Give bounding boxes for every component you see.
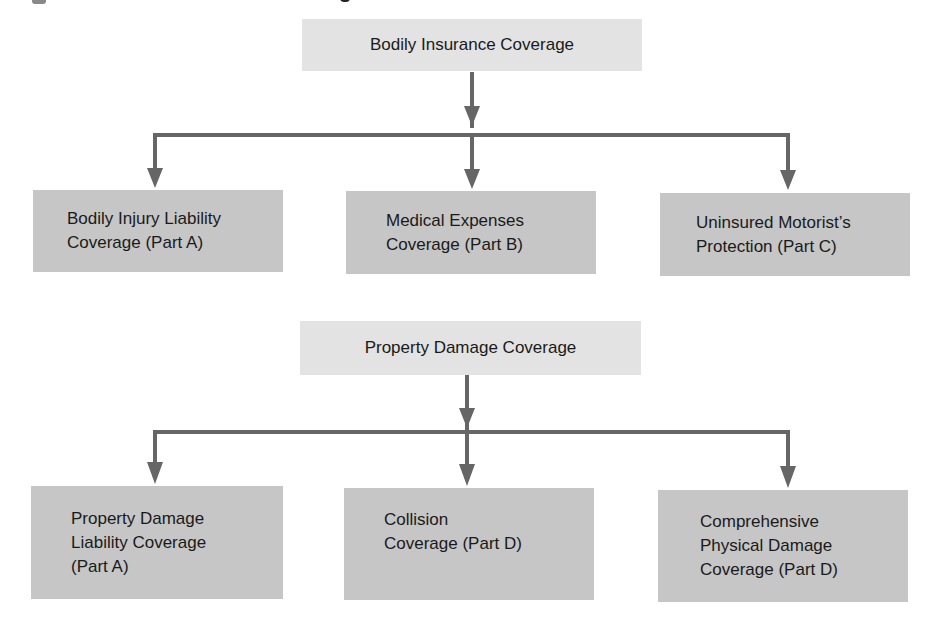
- box-label: Medical Expenses Coverage (Part B): [386, 209, 524, 257]
- box-label: Bodily Injury Liability Coverage (Part A…: [67, 207, 221, 255]
- box-label: Collision Coverage (Part D): [384, 508, 522, 556]
- root-label: Bodily Insurance Coverage: [370, 35, 574, 55]
- box-bodily-injury-liability: Bodily Injury Liability Coverage (Part A…: [33, 190, 283, 272]
- box-label: Comprehensive Physical Damage Coverage (…: [700, 510, 838, 582]
- root-label: Property Damage Coverage: [365, 338, 577, 358]
- box-property-damage-liability: Property Damage Liability Coverage (Part…: [31, 486, 283, 599]
- root-box-property-damage: Property Damage Coverage: [300, 321, 641, 375]
- box-comprehensive-physical-damage: Comprehensive Physical Damage Coverage (…: [658, 490, 908, 602]
- box-uninsured-motorist: Uninsured Motorist’s Protection (Part C): [660, 193, 910, 276]
- box-medical-expenses: Medical Expenses Coverage (Part B): [346, 191, 596, 274]
- box-label: Property Damage Liability Coverage (Part…: [71, 507, 206, 579]
- box-label: Uninsured Motorist’s Protection (Part C): [696, 211, 851, 259]
- root-box-bodily-insurance: Bodily Insurance Coverage: [302, 19, 642, 71]
- box-collision: Collision Coverage (Part D): [344, 488, 594, 600]
